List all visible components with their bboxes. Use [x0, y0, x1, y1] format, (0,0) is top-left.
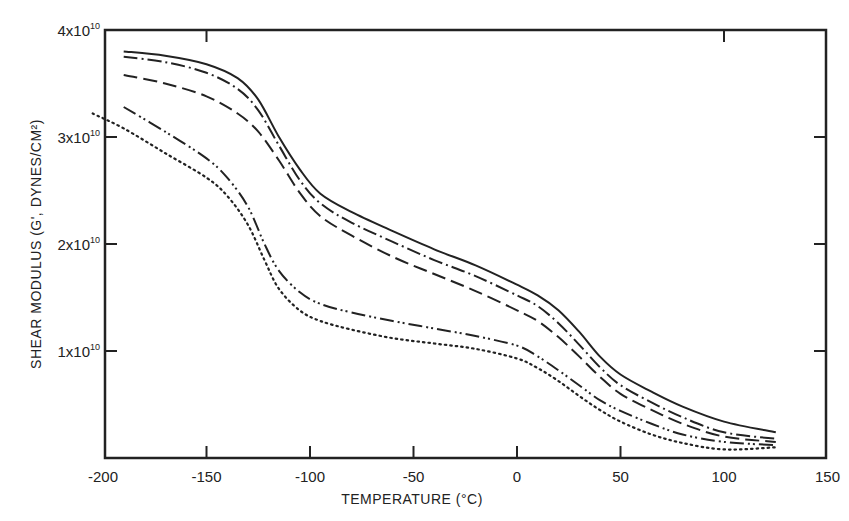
series-layer [93, 51, 776, 449]
y-tick-label: 2x1010 [57, 235, 100, 253]
chart: -200-150-100-50050100150 1x10102x10103x1… [0, 0, 849, 521]
x-tick-label: 50 [612, 468, 629, 485]
series-dash-dot [124, 57, 776, 439]
series-dotted [93, 114, 776, 450]
x-tick-label: 100 [711, 468, 736, 485]
series-solid [124, 51, 776, 432]
series-dash-dot-dot [124, 107, 776, 445]
x-tick-label: 150 [815, 468, 840, 485]
x-tick-label: -50 [403, 468, 425, 485]
y-axis-ticks: 1x10102x10103x10104x1010 [57, 21, 826, 360]
x-tick-label: 0 [513, 468, 521, 485]
y-tick-label: 3x1010 [57, 128, 100, 146]
series-long-dash [124, 75, 776, 442]
y-axis-title: SHEAR MODULUS (G', DYNES/CM²) [28, 119, 44, 369]
plot-frame [105, 30, 826, 458]
x-tick-label: -100 [295, 468, 325, 485]
x-axis-title: TEMPERATURE (°C) [341, 491, 483, 507]
x-tick-label: -200 [88, 468, 118, 485]
y-tick-label: 4x1010 [57, 21, 100, 39]
y-tick-label: 1x1010 [57, 342, 100, 360]
x-tick-label: -150 [191, 468, 221, 485]
x-axis-ticks: -200-150-100-50050100150 [88, 30, 840, 485]
